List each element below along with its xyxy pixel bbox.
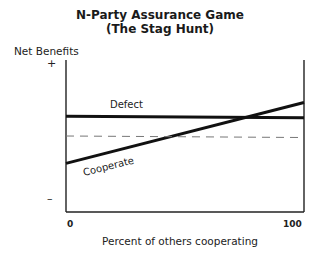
defect-label: Defect	[110, 99, 143, 110]
plot-area: Defect Cooperate	[0, 0, 320, 256]
series-line-reference	[66, 136, 304, 138]
series-line-cooperate	[66, 103, 304, 164]
series-line-defect	[66, 116, 304, 118]
